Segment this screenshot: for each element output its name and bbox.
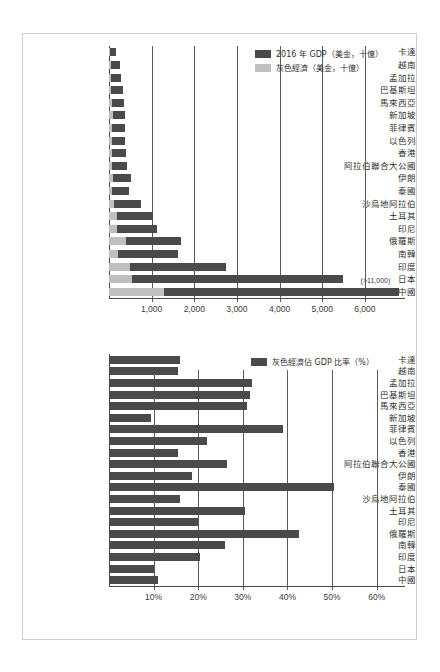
bar-segment: [109, 460, 227, 468]
category-label: 伊朗: [334, 471, 416, 481]
bar-segment: [132, 275, 343, 283]
x-tick-mark: [332, 586, 333, 590]
x-tick-label: 30%: [221, 592, 265, 602]
category-label: 孟加拉: [334, 73, 416, 83]
x-tick-label: 6,000: [343, 304, 387, 314]
x-tick-label: 10%: [132, 592, 176, 602]
bar-segment: [117, 225, 157, 233]
bar-segment: [109, 137, 112, 145]
bar-segment: [109, 149, 112, 157]
x-tick-label: 1,000: [130, 304, 174, 314]
bar-segment: [109, 379, 252, 387]
bar-segment: [112, 187, 129, 195]
bar-segment: [109, 483, 334, 491]
x-tick-mark: [322, 298, 323, 302]
bottom-chart-bars: [23, 352, 416, 634]
bar-segment: [109, 74, 111, 82]
bar-segment: [109, 162, 112, 170]
category-label: 印尼: [334, 517, 416, 527]
bar-segment: [111, 86, 123, 94]
category-label: 泰國: [334, 482, 416, 492]
category-label: 香港: [334, 448, 416, 458]
category-label: 阿拉伯聯合大公國: [334, 459, 416, 469]
bar-segment: [109, 237, 126, 245]
x-tick-mark: [287, 586, 288, 590]
bar-segment: [109, 263, 130, 271]
gridline-2,000: [194, 46, 195, 298]
bottom-chart-legend: 灰色經濟佔 GDP 比率（%）: [251, 356, 374, 367]
category-label: 以色列: [334, 436, 416, 446]
gridline-60%: [377, 370, 378, 586]
x-tick-mark: [154, 586, 155, 590]
category-label: 新加坡: [334, 110, 416, 120]
x-tick-mark: [237, 298, 238, 302]
legend-swatch-icon: [255, 64, 271, 72]
category-label: 新加坡: [334, 413, 416, 423]
bar-segment: [109, 391, 250, 399]
x-tick-mark: [243, 586, 244, 590]
bar-segment: [109, 48, 110, 56]
legend-label: 灰色經濟（美金，十億）: [276, 62, 364, 73]
bar-segment: [109, 225, 117, 233]
bottom-chart-category-labels: 卡達越南孟加拉巴基斯坦馬來西亞新加坡菲律賓以色列香港阿拉伯聯合大公國伊朗泰國沙烏…: [23, 352, 416, 634]
bar-segment: [109, 449, 178, 457]
bar-segment: [109, 541, 225, 549]
bar-segment: [109, 576, 158, 584]
bar-segment: [109, 111, 113, 119]
legend-swatch-icon: [251, 358, 267, 366]
bar-segment: [111, 74, 120, 82]
bar-segment: [109, 86, 111, 94]
category-label: 土耳其: [334, 506, 416, 516]
gridline-20%: [198, 370, 199, 586]
category-label: 日本: [334, 274, 416, 284]
bottom-chart-x-axis: 10%20%30%40%50%60%: [23, 352, 416, 634]
bar-segment: [109, 187, 112, 195]
category-label: 馬來西亞: [334, 401, 416, 411]
category-label: 巴基斯坦: [334, 390, 416, 400]
category-label: 印度: [334, 262, 416, 272]
category-label: 越南: [334, 366, 416, 376]
category-label: 馬來西亞: [334, 98, 416, 108]
top-chart-plot: 卡達越南孟加拉巴基斯坦馬來西亞新加坡菲律賓以色列香港阿拉伯聯合大公國伊朗泰國沙烏…: [23, 44, 416, 344]
category-label: 菲律賓: [334, 424, 416, 434]
y-axis-line: [109, 46, 110, 298]
bar-segment: [109, 437, 207, 445]
x-tick-mark: [377, 586, 378, 590]
figure-frame: 卡達越南孟加拉巴基斯坦馬來西亞新加坡菲律賓以色列香港阿拉伯聯合大公國伊朗泰國沙烏…: [22, 33, 417, 640]
bar-segment: [114, 200, 142, 208]
bar-segment: [112, 137, 126, 145]
gridline-30%: [243, 370, 244, 586]
bar-segment: [109, 553, 200, 561]
gridline-6,000: [365, 46, 366, 298]
x-tick-mark: [152, 298, 153, 302]
gridline-4,000: [280, 46, 281, 298]
category-label: 土耳其: [334, 211, 416, 221]
category-label: 中國: [334, 575, 416, 585]
category-label: 印度: [334, 552, 416, 562]
gridline-1,000: [152, 46, 153, 298]
bar-segment: [109, 414, 151, 422]
category-label: 日本: [334, 564, 416, 574]
bar-segment: [164, 288, 399, 296]
top-chart-panel: 卡達越南孟加拉巴基斯坦馬來西亞新加坡菲律賓以色列香港阿拉伯聯合大公國伊朗泰國沙烏…: [23, 44, 416, 344]
x-tick-label: 60%: [355, 592, 399, 602]
gridline-50%: [332, 370, 333, 586]
bar-segment: [109, 124, 112, 132]
category-label: 印尼: [334, 224, 416, 234]
bar-segment: [109, 61, 111, 69]
bar-segment: [109, 425, 283, 433]
top-chart-bars: (>11,000): [23, 44, 416, 344]
bar-segment: [110, 48, 116, 56]
legend-item: 2016 年 GDP（美金，十億）: [255, 48, 383, 59]
category-label: 南韓: [334, 249, 416, 259]
x-tick-label: 40%: [265, 592, 309, 602]
bar-segment: [109, 288, 164, 296]
x-tick-label: 2,000: [172, 304, 216, 314]
bottom-chart-gridlines: [23, 352, 416, 634]
bar-segment: [130, 263, 227, 271]
x-tick-mark: [198, 586, 199, 590]
bar-segment: [109, 565, 154, 573]
category-label: 孟加拉: [334, 378, 416, 388]
top-chart-category-labels: 卡達越南孟加拉巴基斯坦馬來西亞新加坡菲律賓以色列香港阿拉伯聯合大公國伊朗泰國沙烏…: [23, 44, 416, 344]
top-chart-legend: 2016 年 GDP（美金，十億）灰色經濟（美金，十億）: [255, 48, 383, 73]
